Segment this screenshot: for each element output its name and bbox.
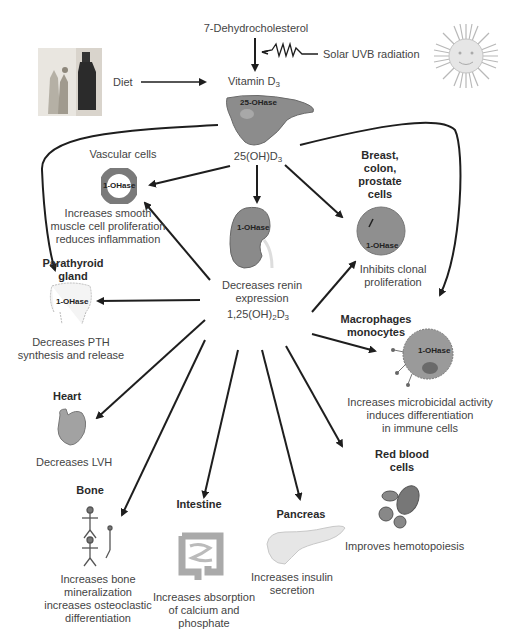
- arrow-calcidiol-to-vascular: [150, 166, 230, 185]
- parathyroid-enzyme-label: 1-OHase: [56, 297, 88, 306]
- bone-effect: Increases bone mineralization increases …: [44, 573, 152, 625]
- vascular-title: Vascular cells: [89, 148, 156, 161]
- arrow-calcitriol-to-pancreas: [262, 350, 300, 499]
- uvb-wave: [262, 44, 318, 56]
- heart-title: Heart: [53, 390, 81, 403]
- arrow-calcitriol-to-intestine: [204, 350, 238, 497]
- macrophage-icon: [390, 322, 460, 392]
- kidney-effect: Decreases renin expression: [222, 279, 302, 305]
- kidney-enzyme-label: 1-OHase: [237, 223, 269, 232]
- pancreas-icon: [265, 524, 347, 570]
- heart-effect: Decreases LVH: [36, 456, 112, 469]
- arrow-calcitriol-to-heart: [97, 320, 205, 418]
- calcitriol-label: 1,25(OH)2D3: [227, 308, 289, 321]
- pancreas-effect: Increases insulin secretion: [251, 571, 333, 597]
- arrow-calcitriol-to-bone: [122, 340, 205, 515]
- arrow-calcitriol-to-redblood: [286, 346, 342, 446]
- vascular-enzyme-label: 1-OHase: [103, 181, 135, 190]
- heart-icon: [54, 407, 90, 451]
- breast-enzyme-label: 1-OHase: [366, 241, 398, 250]
- macrophages-effect: Increases microbicidal activity induces …: [347, 396, 493, 435]
- bone-title: Bone: [76, 484, 104, 497]
- liver-enzyme-label: 25-OHase: [240, 98, 277, 107]
- redblood-title: Red blood cells: [375, 448, 429, 474]
- parathyroid-effect: Decreases PTH synthesis and release: [18, 336, 124, 362]
- intestine-effect: Increases absorption of calcium and phos…: [153, 591, 255, 630]
- sun-icon: [432, 22, 500, 90]
- vascular-effect: Increases smooth muscle cell proliferati…: [51, 207, 166, 246]
- calcidiol-label: 25(OH)D3: [234, 150, 282, 163]
- uvb-label: Solar UVB radiation: [323, 48, 420, 61]
- kidney-icon: [228, 206, 280, 274]
- arrow-calcidiol-to-breast: [285, 165, 342, 217]
- precursor-label: 7-Dehydrocholesterol: [204, 22, 309, 35]
- arrow-calcitriol-to-parathyroid: [98, 300, 200, 301]
- macrophage-enzyme-label: 1-OHase: [418, 346, 450, 355]
- red-blood-cells-icon: [378, 484, 426, 534]
- bone-skeleton-icon: [72, 506, 120, 572]
- intestine-title: Intestine: [176, 498, 221, 511]
- parathyroid-title: Parathyroid gland: [42, 257, 103, 283]
- diet-label: Diet: [113, 76, 133, 89]
- breast-title: Breast, colon, prostate cells: [358, 149, 401, 201]
- breast-effect: Inhibits clonal proliferation: [360, 263, 427, 289]
- arrow-calcitriol-to-breast: [312, 262, 355, 312]
- diet-image: [38, 48, 102, 116]
- redblood-effect: Improves hemotopoiesis: [345, 540, 464, 553]
- breast-cell-icon: [355, 205, 407, 261]
- intestine-icon: [178, 532, 224, 586]
- vitamin-d3-label: Vitamin D3: [228, 75, 280, 88]
- pancreas-title: Pancreas: [277, 508, 326, 521]
